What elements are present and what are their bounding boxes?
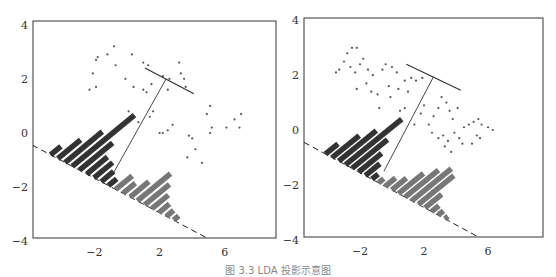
data-point [372,74,374,76]
data-point [185,86,187,88]
data-point [240,113,242,115]
data-point [367,69,369,71]
x-tick-label: −2 [352,245,368,258]
data-point [487,126,489,128]
x-tick-label: 2 [156,246,163,259]
data-point [114,64,116,66]
data-point [194,148,196,150]
data-point [396,71,398,73]
data-point [453,132,455,134]
data-point [471,143,473,145]
data-point [370,91,372,93]
data-point [95,86,97,88]
data-point [377,93,379,95]
data-point [209,132,211,134]
data-point [461,143,463,145]
data-point [172,124,174,126]
data-point [92,72,94,74]
data-point [180,72,182,74]
data-point [437,107,439,109]
x-tick-label: 2 [421,245,428,258]
data-point [468,123,470,125]
data-point [420,112,422,114]
histogram-bar [379,179,384,183]
data-point [381,69,383,71]
histogram-bar [159,204,169,213]
data-point [178,61,180,63]
data-point [152,110,154,112]
data-point [410,77,412,79]
data-point [477,118,479,120]
data-point [225,126,227,128]
y-tick-label: −4 [12,235,28,248]
y-tick-label: −2 [12,181,28,194]
left-panel: −4−2024−226 [12,19,276,259]
data-point [407,91,409,93]
data-point [463,126,465,128]
histogram-bar [372,174,378,179]
data-point [365,82,367,84]
plot-frame [304,18,543,237]
data-point [201,162,203,164]
x-tick-label: 6 [485,245,492,258]
data-point [97,56,99,58]
data-point [391,66,393,68]
data-point [356,88,358,90]
histogram-bar [108,179,116,186]
data-point [359,63,361,65]
data-point [362,58,364,60]
data-point [473,121,475,123]
data-point [444,145,446,147]
right-panel: −4−2024−226 [283,14,543,258]
y-tick-label: 0 [21,127,28,140]
data-point [188,135,190,137]
histogram-bar [174,216,179,220]
data-point [137,121,139,123]
mean-separator-line [145,68,194,94]
data-point [142,89,144,91]
histogram-bar [438,211,443,215]
data-point [378,107,380,109]
data-point [349,66,351,68]
data-point [385,63,387,65]
data-point [233,118,235,120]
data-point [343,60,345,62]
data-point [145,91,147,93]
data-point [445,102,447,104]
histogram-bar [445,216,448,219]
data-point [388,85,390,87]
data-point [447,140,449,142]
data-point [159,132,161,134]
data-point [191,137,193,139]
histogram-bar [166,210,173,216]
data-point [113,45,115,47]
data-point [413,123,415,125]
x-tick-label: 6 [221,246,228,259]
data-point [338,69,340,71]
y-tick-label: 4 [21,19,28,32]
data-point [346,52,348,54]
data-point [389,96,391,98]
data-point [335,71,337,73]
data-point [397,88,399,90]
data-point [128,110,130,112]
data-point [449,110,451,112]
data-point [421,77,423,79]
data-point [150,83,152,85]
data-point [354,71,356,73]
data-point [481,123,483,125]
data-point [458,137,460,139]
data-point [186,156,188,158]
data-point [433,115,435,117]
y-tick-label: 0 [292,124,299,137]
histogram-bar [432,206,439,212]
y-tick-label: 4 [292,14,299,27]
data-point [168,78,170,80]
data-point [479,137,481,139]
data-point [106,53,108,55]
data-point [183,78,185,80]
y-tick-label: −2 [283,179,299,192]
x-tick-label: −2 [86,246,102,259]
projection-connector-line [384,77,434,172]
data-point [437,137,439,139]
